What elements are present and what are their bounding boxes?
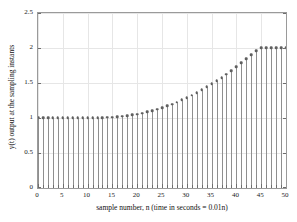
data-point-marker [47,117,50,120]
x-tick-minor [107,185,108,188]
stem-line [93,118,94,188]
x-tick-label: 30 [182,191,189,199]
gridline-horizontal [38,188,286,189]
y-tick-major [38,187,41,188]
data-point-marker [195,91,198,94]
stem-plot-figure: 05101520253035404550 00.511.522.5 sample… [0,0,297,222]
x-tick-minor [182,185,183,188]
y-tick-major [38,118,41,119]
x-tick-major [88,184,89,188]
x-tick-minor [58,185,59,188]
x-axis-label: sample number, n (time in seconds = 0.01… [37,203,287,213]
x-tick-labels: 05101520253035404550 [37,191,287,203]
stem-line [78,118,79,188]
x-tick-minor [222,185,223,188]
x-tick-minor [167,185,168,188]
data-point-marker [86,117,89,120]
y-tick-label: 2 [30,43,34,51]
data-point-marker [275,47,278,50]
x-tick-minor [251,185,252,188]
x-tick-minor [117,185,118,188]
y-tick-major-right [283,118,286,119]
x-tick-major [187,184,188,188]
stem-line [48,118,49,188]
stem-line [281,48,282,188]
stem-line [212,84,213,188]
stem-line [68,118,69,188]
y-tick-major-right [283,187,286,188]
y-tick-major-right [283,153,286,154]
x-tick-minor [68,185,69,188]
x-tick-minor [43,185,44,188]
stem-line [167,106,168,188]
data-point-marker [106,116,109,119]
x-tick-minor [172,185,173,188]
y-tick-major [38,13,41,14]
x-tick-minor [98,185,99,188]
data-point-marker [71,117,74,120]
x-tick-minor [152,185,153,188]
data-point-marker [260,47,263,50]
x-tick-minor [271,185,272,188]
y-tick-major-right [283,48,286,49]
x-tick-minor [122,185,123,188]
stem-line [276,48,277,188]
stem-line [286,48,287,188]
data-point-marker [166,105,169,108]
data-point-marker [126,114,129,117]
stem-line [202,90,203,188]
stem-line [222,78,223,188]
x-tick-minor [266,185,267,188]
y-tick-major-right [283,83,286,84]
stem-line [83,118,84,188]
stem-line [226,74,227,188]
stem-line [137,114,138,188]
data-point-marker [121,115,124,118]
x-tick-major [162,184,163,188]
data-point-marker [230,69,233,72]
data-point-marker [57,117,60,120]
gridline-horizontal [38,13,286,14]
x-tick-minor [202,185,203,188]
stem-line [261,48,262,188]
x-tick-minor [142,185,143,188]
x-tick-major [137,184,138,188]
x-tick-minor [281,185,282,188]
stem-line [107,117,108,188]
stem-line [266,48,267,188]
data-point-marker [210,83,213,86]
x-tick-minor [177,185,178,188]
x-tick-major [286,184,287,188]
x-tick-major [261,184,262,188]
stem-line [157,109,158,188]
x-tick-label: 35 [207,191,214,199]
stem-line [88,118,89,188]
y-tick-major [38,48,41,49]
x-tick-major [212,184,213,188]
x-tick-label: 10 [83,191,90,199]
x-tick-minor [53,185,54,188]
x-tick-minor [246,185,247,188]
x-tick-minor [132,185,133,188]
y-tick-major-right [283,13,286,14]
x-tick-minor [78,185,79,188]
x-tick-minor [147,185,148,188]
data-point-marker [91,117,94,120]
data-point-marker [156,108,159,111]
data-point-marker [240,62,243,65]
x-tick-minor [241,185,242,188]
y-tick-label: 0.5 [24,148,33,156]
data-point-marker [205,86,208,89]
data-point-marker [111,116,114,119]
x-tick-label: 20 [133,191,140,199]
stem-line [122,116,123,188]
x-tick-minor [102,185,103,188]
stem-line [73,118,74,188]
data-point-marker [245,58,248,61]
y-tick-major [38,153,41,154]
stem-line [241,63,242,188]
x-tick-minor [83,185,84,188]
data-point-marker [101,116,104,119]
x-tick-minor [73,185,74,188]
x-tick-minor [127,185,128,188]
